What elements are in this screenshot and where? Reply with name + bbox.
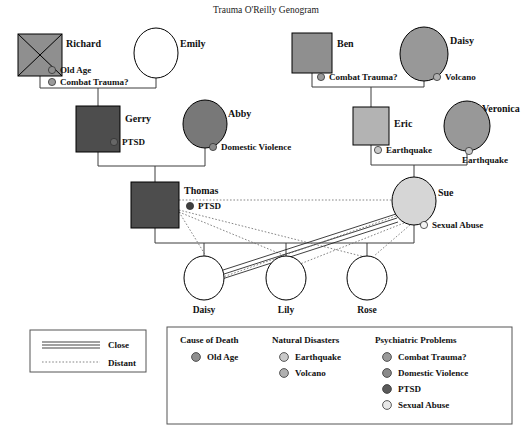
person-thomas[interactable]: ThomasPTSD [131,182,222,228]
marker-label-daisy_gm-0: Volcano [445,72,476,82]
legend-item-2-0: Combat Trauma? [398,352,466,362]
marker-dot-icon [48,66,55,73]
person-lily[interactable]: Lily [266,256,306,315]
person-veronica[interactable]: VeronicaEarthquake [444,101,520,165]
person-shape-circle[interactable] [400,27,448,81]
marker-label-ben-0: Combat Trauma? [329,72,397,82]
legend-item-2-2: PTSD [398,384,422,394]
legend-group-title-0: Cause of Death [180,335,239,345]
marker-dot-icon [374,146,381,153]
legend-dot-icon [383,401,392,410]
marker-label-gerry-0: PTSD [122,137,146,147]
person-name-rose: Rose [357,305,377,315]
person-abby[interactable]: AbbyDomestic Violence [183,100,291,152]
legend-item-2-1: Domestic Violence [398,368,468,378]
marker-dot-icon [48,78,55,85]
marker-dot-icon [465,147,472,154]
person-emily[interactable]: Emily [134,28,206,78]
marker-dot-icon [317,73,324,80]
legend-dot-icon [280,369,289,378]
genogram-page: Trauma O'Reilly Genogram [0,0,532,433]
legend-dot-icon [280,353,289,362]
legend-item-1-1: Volcano [295,368,326,378]
person-shape-circle[interactable] [347,256,387,300]
marker-dot-icon [433,73,440,80]
rel-sue-rose-distant [374,225,410,256]
marker-dot-icon [420,221,427,228]
person-name-abby: Abby [228,108,251,119]
person-gerry[interactable]: GerryPTSD [76,106,151,152]
person-shape-square[interactable] [131,182,179,228]
person-name-lily: Lily [278,305,295,315]
marker-dot-icon [186,202,193,209]
marker-label-abby-0: Domestic Violence [221,142,291,152]
legend-dot-icon [383,353,392,362]
marker-label-eric-0: Earthquake [386,145,432,155]
person-ben[interactable]: BenCombat Trauma? [292,33,397,82]
person-daisy_child[interactable]: Daisy [184,256,224,315]
person-name-veronica: Veronica [482,103,520,114]
legend-item-1-0: Earthquake [295,352,341,362]
person-shape-circle[interactable] [392,177,436,225]
person-sue[interactable]: SueSexual Abuse [392,177,483,230]
legend-item-0-0: Old Age [207,352,238,362]
marker-label-veronica-0: Earthquake [462,155,508,165]
legend-close-label: Close [108,340,129,350]
person-rose[interactable]: Rose [347,256,387,315]
legend-distant-label: Distant [108,358,136,368]
rel-thomas-lily-distant [179,212,288,257]
marker-dot-icon [110,138,117,145]
person-name-emily: Emily [180,38,206,49]
legend-group-title-2: Psychiatric Problems [375,335,457,345]
legend-dot-icon [192,353,201,362]
genogram-canvas: Trauma O'Reilly Genogram [0,0,532,433]
people-layer: RichardOld AgeCombat Trauma?EmilyBenComb… [18,27,520,315]
marker-label-sue-0: Sexual Abuse [432,220,483,230]
legend-dot-icon [383,369,392,378]
legend-group-title-1: Natural Disasters [272,335,340,345]
person-shape-circle[interactable] [183,100,227,148]
person-shape-circle[interactable] [134,28,178,78]
marker-label-richard-1: Combat Trauma? [60,77,128,87]
marker-label-thomas-0: PTSD [198,201,222,211]
family-lines [40,73,467,256]
person-eric[interactable]: EricEarthquake [353,107,432,155]
person-name-gerry: Gerry [125,113,151,124]
person-shape-square[interactable] [353,107,389,145]
person-name-richard: Richard [66,38,101,49]
legend-dot-icon [383,385,392,394]
legend-item-2-3: Sexual Abuse [398,400,449,410]
person-richard[interactable]: RichardOld AgeCombat Trauma? [18,34,128,87]
page-title: Trauma O'Reilly Genogram [213,5,319,15]
person-name-eric: Eric [394,118,413,129]
person-name-daisy_child: Daisy [193,305,216,315]
person-daisy_gm[interactable]: DaisyVolcano [400,27,476,82]
person-name-daisy_gm: Daisy [450,35,474,46]
person-name-thomas: Thomas [184,185,219,196]
marker-label-richard-0: Old Age [60,65,91,75]
rel-thomas-daisy-distant [179,212,206,256]
person-name-sue: Sue [438,187,454,198]
person-shape-square[interactable] [292,33,332,73]
legend-line-types: Close Distant [30,330,146,372]
person-shape-circle[interactable] [266,256,306,300]
person-shape-circle[interactable] [184,256,224,300]
marker-dot-icon [209,143,216,150]
person-name-ben: Ben [337,38,354,49]
